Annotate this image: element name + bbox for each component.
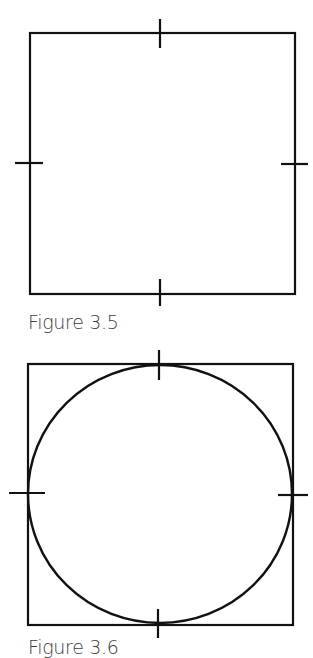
figure-3-6-inscribed-circle	[28, 365, 292, 623]
figure-3-6-caption: Figure 3.6	[28, 636, 119, 658]
figure-3-5-square	[30, 33, 295, 294]
figure-3-5-diagram	[15, 19, 308, 306]
figure-3-5-caption: Figure 3.5	[28, 311, 119, 333]
figure-3-6-diagram	[9, 350, 308, 638]
